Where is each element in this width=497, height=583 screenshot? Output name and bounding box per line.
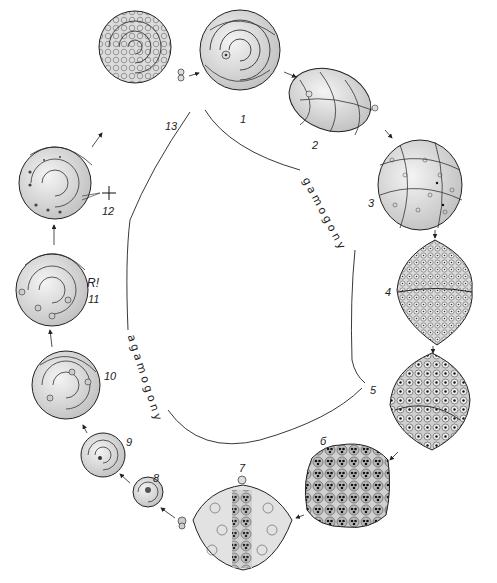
- embryo-13-1: [178, 69, 184, 81]
- stage-4-gametes: [397, 240, 472, 345]
- stage-label-10: 10: [104, 371, 116, 382]
- stage-3-shell: [378, 140, 462, 230]
- stage-label-9: 9: [126, 437, 132, 448]
- life-cycle-diagram: 1 2 3 4 5 б 7 8 9 10 11 12 13 R! gamogon…: [0, 0, 497, 583]
- stage-9-agamont: [81, 433, 125, 477]
- stage-10-agamont: [32, 351, 100, 419]
- stage-label-1: 1: [240, 114, 246, 125]
- stage-label-13: 13: [165, 121, 177, 132]
- stage-label-2: 2: [312, 140, 318, 151]
- diagram-graphics: [0, 0, 497, 583]
- stage-2-shell: [280, 57, 379, 142]
- embryo-7-8: [178, 517, 186, 529]
- stage-label-11: 11: [88, 294, 99, 305]
- stage-12-agamont: [19, 147, 100, 219]
- stage-label-6: б: [320, 436, 326, 447]
- stage-label-5: 5: [370, 385, 376, 396]
- stage-label-8: 8: [153, 473, 159, 484]
- stage-label-4: 4: [385, 287, 391, 298]
- stage-6-zygotes: [305, 444, 389, 528]
- stage-label-3: 3: [368, 198, 374, 209]
- phase-curves: [127, 110, 365, 444]
- stage-label-7: 7: [239, 463, 245, 474]
- stage-7-agamonts: [193, 476, 292, 570]
- meiosis-marker: R!: [87, 277, 99, 289]
- stage-5-gametes: [390, 353, 470, 450]
- stage-13-agamont: [99, 11, 171, 83]
- stage-1-shell: [200, 10, 280, 90]
- stage-11-agamont: [16, 254, 88, 326]
- cross-marker-icon: [102, 186, 116, 200]
- stage-label-12: 12: [102, 206, 114, 217]
